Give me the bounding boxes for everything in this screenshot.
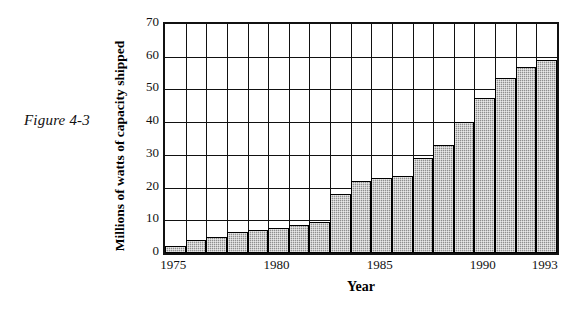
x-axis-tick-labels: 19751980198519901993 [163,257,559,277]
y-tick-label: 70 [121,14,159,30]
bar-1982 [309,222,330,253]
bar-1981 [289,225,310,253]
y-tick-label: 0 [121,243,159,259]
bar-1976 [186,240,207,253]
bar-1983 [330,194,351,253]
y-tick-label: 40 [121,112,159,128]
x-tick-label: 1975 [160,257,186,273]
plot-area [163,22,559,255]
y-axis-tick-labels: 010203040506070 [119,22,159,255]
bar-1977 [206,237,227,253]
x-axis-title: Year [163,279,559,295]
bar-1975 [165,246,186,253]
bar-1990 [474,98,495,253]
bar-1979 [248,230,269,253]
bar-1992 [516,67,537,253]
bar-1987 [413,158,434,253]
y-tick-label: 20 [121,178,159,194]
bar-1985 [371,178,392,253]
x-tick-label: 1993 [532,257,558,273]
bar-1984 [351,181,372,253]
y-tick-label: 30 [121,145,159,161]
x-tick-label: 1990 [470,257,496,273]
x-tick-label: 1985 [367,257,393,273]
bar-1993 [536,60,557,253]
y-tick-label: 60 [121,47,159,63]
bar-1991 [495,78,516,253]
figure-container: Figure 4-3 Millions of watts of capacity… [0,0,578,312]
x-tick-label: 1980 [263,257,289,273]
bar-series [165,24,557,253]
y-tick-label: 50 [121,79,159,95]
y-tick-label: 10 [121,210,159,226]
bar-1989 [454,122,475,253]
bar-1978 [227,232,248,253]
bar-1980 [268,228,289,253]
bar-1986 [392,176,413,253]
bar-1988 [433,145,454,253]
